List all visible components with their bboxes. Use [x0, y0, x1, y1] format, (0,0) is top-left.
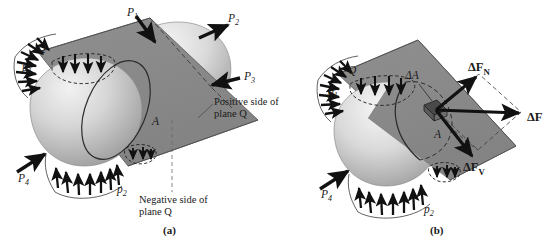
force-P1-label-a: P1: [127, 6, 138, 21]
positive-side-line-1: Positive side of: [214, 96, 279, 107]
pressure-p2-label-b: p2: [424, 203, 434, 218]
figure-artwork: [0, 0, 558, 245]
pressure-p1-label-b: p1: [328, 85, 338, 100]
negative-side-note: Negative side of plane Q: [139, 194, 208, 218]
force-P4-arrow: [17, 154, 45, 172]
caption-b: (b): [430, 224, 443, 236]
negative-side-line-1: Negative side of: [139, 194, 208, 205]
force-P4-label-a: P4: [18, 172, 29, 187]
delta-area-label: ΔA: [405, 69, 419, 82]
force-P2-label-a: P2: [228, 12, 239, 27]
caption-a: (a): [163, 224, 176, 236]
delta-F-label: ΔF: [527, 110, 542, 124]
force-P4-arrow-b: [320, 171, 348, 189]
positive-side-line-2: plane Q: [214, 108, 247, 119]
pressure-p2-label-a: p2: [117, 183, 127, 198]
area-A-label-a: A: [152, 115, 159, 128]
area-A-label-b: A: [434, 128, 441, 141]
figure-container: Q p1 p2 P1 P2 P3 P4 A Positive side of p…: [0, 0, 558, 245]
plane-label-b: Q: [348, 64, 356, 77]
delta-FN-label: ΔFN: [468, 60, 490, 77]
positive-side-note: Positive side of plane Q: [214, 96, 279, 120]
delta-FV-label: ΔFV: [463, 160, 485, 177]
force-P4-label-b: P4: [321, 188, 332, 203]
negative-side-line-2: plane Q: [139, 206, 172, 217]
force-P3-label-a: P3: [244, 70, 255, 85]
plane-label-a: Q: [38, 41, 46, 54]
pressure-p1-label-a: p1: [22, 61, 32, 76]
